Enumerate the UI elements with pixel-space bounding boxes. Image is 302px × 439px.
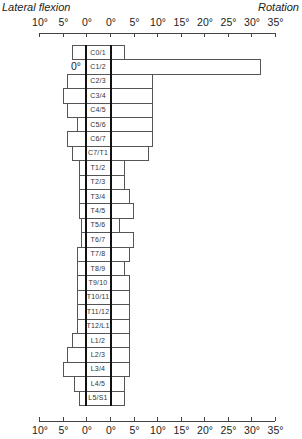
tick-right-7-label: 35° [268, 424, 284, 436]
tick-mark [110, 417, 111, 421]
tick-mark [228, 33, 229, 37]
lateral-flexion-title: Lateral flexion [2, 1, 71, 13]
tick-mark [63, 33, 64, 37]
tick-mark [86, 33, 87, 37]
rotation-title: Rotation [258, 1, 299, 13]
tick-mark [134, 33, 135, 37]
axis-line [39, 421, 275, 422]
tick-mark [275, 33, 276, 37]
tick-mark [251, 417, 252, 421]
tick-right-5-label: 25° [221, 424, 237, 436]
tick-left-0-label: 10° [32, 424, 48, 436]
tick-mark [181, 417, 182, 421]
tick-mark [251, 33, 252, 37]
tick-right-6-label: 30° [244, 424, 260, 436]
tick-right-2-label: 10° [150, 16, 166, 28]
tick-mark [39, 33, 40, 37]
tick-right-2-label: 10° [150, 424, 166, 436]
tick-left-1-label: 5° [58, 424, 68, 436]
tick-left-2-label: 0° [82, 424, 92, 436]
tick-mark [110, 33, 111, 37]
tick-mark [157, 417, 158, 421]
tick-left-1-label: 5° [58, 16, 68, 28]
tick-mark [134, 417, 135, 421]
tick-right-4-label: 20° [197, 16, 213, 28]
segment-bar-c1-2 [86, 59, 261, 74]
tick-right-5-label: 25° [221, 16, 237, 28]
tick-left-0-label: 10° [32, 16, 48, 28]
tick-mark [275, 417, 276, 421]
tick-mark [228, 417, 229, 421]
tick-mark [204, 417, 205, 421]
tick-right-3-label: 15° [174, 16, 190, 28]
zero-column [85, 45, 112, 406]
tick-mark [39, 417, 40, 421]
tick-mark [204, 33, 205, 37]
tick-right-6-label: 30° [244, 16, 260, 28]
tick-right-4-label: 20° [197, 424, 213, 436]
tick-right-3-label: 15° [174, 424, 190, 436]
tick-mark [86, 417, 87, 421]
spinal-motion-chart: Lateral flexion Rotation 10°5°0°0°5°10°1… [0, 0, 302, 439]
tick-right-1-label: 5° [129, 16, 139, 28]
tick-mark [63, 417, 64, 421]
tick-mark [157, 33, 158, 37]
tick-right-1-label: 5° [129, 424, 139, 436]
tick-right-0-label: 0° [106, 16, 116, 28]
tick-left-2-label: 0° [82, 16, 92, 28]
tick-mark [181, 33, 182, 37]
tick-right-0-label: 0° [106, 424, 116, 436]
tick-right-7-label: 35° [268, 16, 284, 28]
c1-2-zero-annotation: 0° [71, 60, 81, 72]
